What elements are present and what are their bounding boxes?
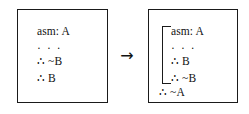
proof-box-right: asm: A · · · ∴ B ∴ ~B ∴ ~A — [148, 9, 238, 103]
proof-line-ellipsis: · · · — [171, 42, 196, 54]
proof-box-left: asm: A · · · ∴ ~B ∴ B — [17, 9, 108, 103]
proof-line-list-left: asm: A · · · ∴ ~B ∴ B — [18, 10, 107, 102]
proof-line-assumption: asm: A — [171, 25, 204, 37]
rightwards-arrow-icon: → — [114, 45, 140, 67]
proof-line-derived-1: ∴ B — [171, 55, 190, 67]
proof-line-conclusion: ∴ ~A — [159, 86, 185, 98]
proof-line-derived-1: ∴ ~B — [37, 55, 62, 67]
proof-line-derived-2: ∴ B — [37, 72, 56, 84]
proof-line-derived-2: ∴ ~B — [171, 72, 196, 84]
proof-line-assumption: asm: A — [37, 25, 70, 37]
proof-line-list-right: asm: A · · · ∴ B ∴ ~B ∴ ~A — [149, 10, 237, 102]
proof-line-ellipsis: · · · — [37, 42, 62, 54]
proof-transformation-figure: asm: A · · · ∴ ~B ∴ B → asm: A · · · ∴ B… — [0, 0, 249, 114]
